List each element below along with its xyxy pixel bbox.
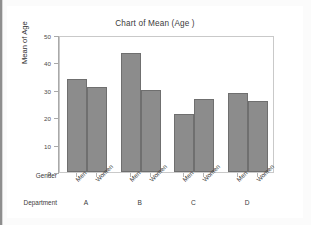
bar (87, 87, 107, 172)
y-axis-tick (54, 118, 59, 119)
chart-title: Chart of Mean (Age ) (7, 19, 303, 28)
y-axis-tick (54, 91, 59, 92)
y-axis-tick (54, 63, 59, 64)
y-axis-tick-label: 30 (7, 87, 51, 94)
bar (228, 93, 248, 172)
y-axis-tick (54, 36, 59, 37)
chart-card: Chart of Mean (Age ) Mean of Age 0102030… (7, 6, 303, 218)
bar (121, 53, 141, 172)
gender-axis-row-label: Gender (19, 172, 57, 179)
plot-frame (59, 36, 274, 173)
y-axis-tick-label: 20 (7, 115, 51, 122)
y-axis-tick-label: 50 (7, 33, 51, 40)
y-axis-tick-label: 10 (7, 142, 51, 149)
bar (194, 99, 214, 172)
plot-area (60, 37, 273, 172)
department-axis-row-label: Department (11, 199, 57, 206)
bar (248, 101, 268, 172)
bar (67, 79, 87, 172)
y-axis-title: Mean of Age (20, 21, 29, 64)
y-axis-tick-label: 40 (7, 60, 51, 67)
department-tick-label: B (130, 199, 150, 206)
department-tick-label: A (76, 199, 96, 206)
department-tick-label: D (237, 199, 257, 206)
y-axis-tick (54, 146, 59, 147)
bar (174, 114, 194, 172)
screenshot-root: Chart of Mean (Age ) Mean of Age 0102030… (0, 0, 311, 225)
bar (141, 90, 161, 172)
department-tick-label: C (183, 199, 203, 206)
left-edge-divider-shadow (2, 0, 3, 225)
